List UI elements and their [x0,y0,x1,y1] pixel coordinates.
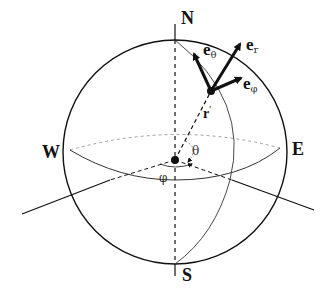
e-r-label: er [246,35,259,55]
west-label: W [42,142,60,162]
phi-label: φ [159,171,167,185]
e-theta-label: eθ [203,40,217,60]
axis-left-solid [22,180,110,214]
e-theta-vector [194,54,211,91]
theta-label: θ [192,144,199,158]
south-label: S [182,265,192,285]
e-phi-label: eφ [243,74,258,94]
north-label: N [181,8,194,28]
axis-right-dashed [175,160,232,180]
position-vector-label: r' [203,104,211,121]
phi-arc [160,164,192,167]
spherical-coordinates-diagram: N S W E eθ er eφ r' θ φ [0,0,329,289]
east-label: E [292,139,304,159]
